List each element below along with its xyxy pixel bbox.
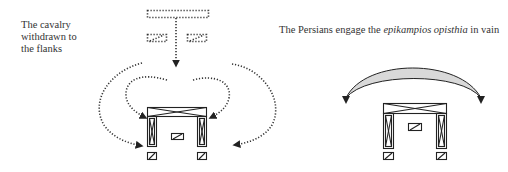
flank-arrows-right	[193, 64, 276, 145]
infantry-formation-left	[148, 108, 207, 160]
persian-crescent-arrow	[342, 68, 485, 104]
diagram-graphics	[0, 0, 508, 172]
cavalry-dotted-squadron-right	[188, 35, 207, 42]
cavalry-dotted-block	[148, 11, 209, 18]
infantry-formation-right	[384, 104, 447, 160]
diagram-canvas: The cavalry withdrawn to the flanks The …	[0, 0, 508, 172]
cavalry-dotted-squadron-left	[148, 35, 167, 42]
